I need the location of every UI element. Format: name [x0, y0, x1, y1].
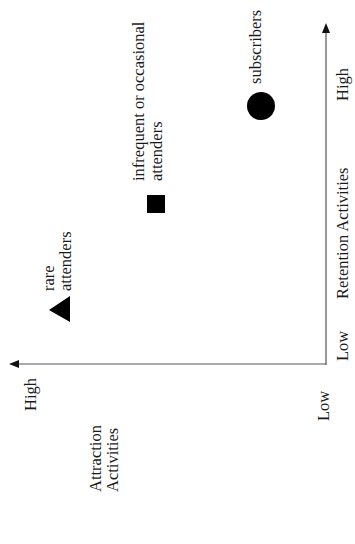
attraction-axis-arrow-icon	[9, 360, 19, 368]
retention-low-label: Low	[334, 331, 351, 361]
infrequent-label-line2: attenders	[148, 121, 165, 181]
square-marker-icon	[147, 195, 165, 213]
rare-label-line1: rare	[40, 265, 57, 291]
attraction-low-label: Low	[315, 391, 332, 421]
rare-label-line2: attenders	[57, 231, 74, 291]
attraction-high-label: High	[22, 378, 39, 411]
retention-high-label: High	[334, 68, 351, 101]
attraction-title-line2: Activities	[104, 428, 121, 492]
attraction-title-line1: Attraction	[87, 425, 104, 492]
circle-marker-icon	[247, 92, 275, 120]
infrequent-label-line1: infrequent or occasional	[130, 22, 147, 181]
retention-axis-title: Retention Activities	[334, 167, 351, 299]
triangle-marker-icon	[49, 296, 70, 322]
subscribers-label: subscribers	[247, 10, 264, 84]
retention-axis-arrow-icon	[322, 23, 330, 33]
